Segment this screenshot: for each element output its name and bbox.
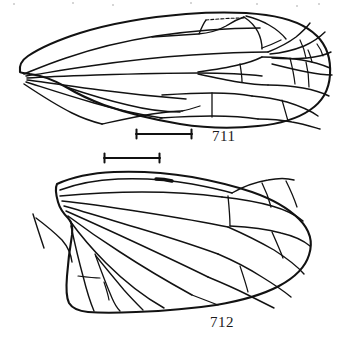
scan-speck (296, 5, 298, 7)
scan-speck (190, 2, 192, 4)
scan-speck (318, 3, 320, 5)
scan-speck (13, 3, 15, 5)
pterostigma (156, 179, 172, 181)
wing-venation-svg (0, 0, 338, 350)
illustration-plate: 711 712 (0, 0, 338, 350)
scan-speck (72, 2, 74, 4)
scan-speck (112, 4, 114, 6)
plate-background (0, 0, 338, 350)
figure-label-712: 712 (210, 314, 234, 331)
scan-speck (256, 3, 258, 5)
figure-label-711: 711 (212, 128, 235, 145)
